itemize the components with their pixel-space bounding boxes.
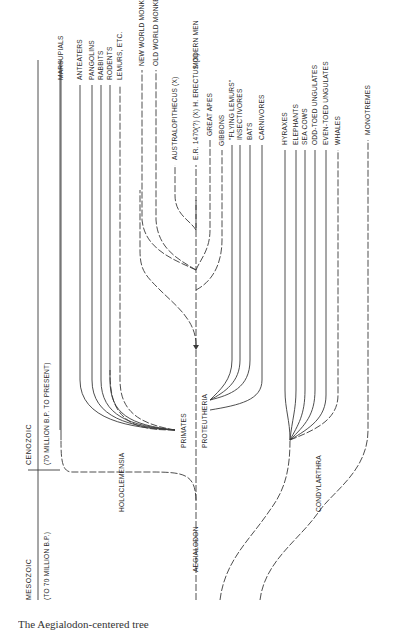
taxon-rodents: RODENTS — [106, 46, 113, 80]
taxon-sea-cows: SEA COWS — [301, 108, 308, 145]
taxon-new-world-monkeys: NEW WORLD MONKEYS — [138, 0, 145, 66]
taxon-er1470-h-erectus: E.R. 1470(?) (X) H. ERECTUS (X) — [192, 53, 200, 160]
monotremes-line — [260, 140, 368, 600]
rabbits-line — [101, 85, 175, 430]
whales-line — [290, 150, 338, 440]
taxon-elephants: ELEPHANTS — [292, 104, 299, 145]
taxon-hyraxes: HYRAXES — [281, 112, 288, 145]
taxon-modern-men: MODERN MEN — [192, 20, 199, 68]
gibbons-line — [196, 150, 222, 290]
flying-lemurs-line — [210, 145, 232, 400]
taxon-australopithecus: AUSTRALOPITHECUS (X) — [171, 76, 179, 160]
taxon-lemurs: LEMURS, ETC. — [116, 31, 123, 80]
taxon-rabbits: RABBITS — [97, 50, 104, 80]
primates-branch — [140, 190, 196, 345]
taxon-flying-lemurs: "FLYING LEMURS" — [228, 79, 235, 140]
node-proteutheria: PROTEUTHERIA — [201, 394, 208, 448]
australopithecus-line — [175, 165, 196, 230]
node-aegialodon: AEGIALODON — [192, 526, 199, 572]
odd-toed-line — [290, 150, 315, 440]
era-cenozoic-range: (70 MILLION B.P. TO PRESENT) — [43, 362, 51, 465]
taxon-gibbons: GIBBONS — [218, 114, 225, 146]
figure-caption: The Aegialodon-centered tree — [18, 618, 149, 631]
elephants-line — [290, 150, 296, 440]
anteaters-line — [80, 85, 175, 430]
era-cenozoic-label: CENOZOIC — [25, 424, 32, 465]
node-condylarthra: CONDYLARTHRA — [315, 455, 322, 512]
primates-arrow-icon — [193, 345, 199, 350]
taxon-pangolins: PANGOLINS — [88, 40, 95, 80]
taxon-whales: WHALES — [334, 116, 341, 145]
taxon-bats: BATS — [246, 122, 253, 140]
taxon-great-apes: GREAT APES — [206, 92, 213, 136]
sea-cows-line — [290, 150, 305, 440]
taxon-marsupials: MARSUPIALS — [57, 35, 64, 80]
insectivores-line — [210, 145, 240, 400]
hyraxes-line — [285, 150, 290, 440]
era-mesozoic-label: MESOZOIC — [25, 559, 32, 600]
lemurs-line — [120, 85, 175, 430]
carnivores-line — [210, 145, 262, 410]
node-holoclemensia: HOLOCLEMENSIA — [118, 452, 125, 512]
new-world-monkeys-line — [142, 70, 196, 270]
taxon-insectivores: INSECTIVORES — [236, 88, 243, 140]
taxon-even-toed-ungulates: EVEN-TOED UNGULATES — [322, 61, 329, 145]
phylogenetic-tree-diagram: MESOZOIC (TO 70 MILLION B.P.) CENOZOIC (… — [0, 0, 397, 631]
bats-line — [210, 145, 250, 400]
taxon-odd-toed-ungulates: ODD-TOED UNGULATES — [311, 64, 318, 145]
era-mesozoic-range: (TO 70 MILLION B.P.) — [43, 532, 51, 600]
node-primates: PRIMATES — [180, 413, 187, 448]
marsupials-line — [61, 440, 196, 500]
pangolins-line — [92, 85, 175, 430]
condylarthra-trunk — [220, 440, 290, 600]
taxon-old-world-monkeys: OLD WORLD MONKEYS — [152, 0, 159, 66]
taxon-carnivores: CARNIVORES — [258, 94, 265, 140]
taxon-anteaters: ANTEATERS — [76, 39, 83, 80]
taxon-monotremes: MONOTREMES — [364, 85, 371, 135]
